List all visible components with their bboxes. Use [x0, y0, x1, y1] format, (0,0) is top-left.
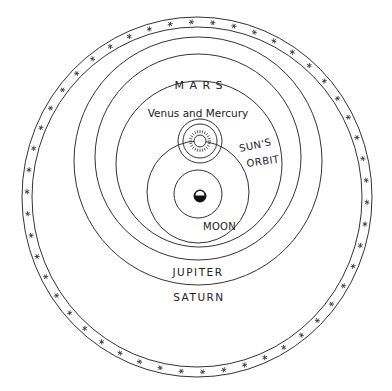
star-icon: [147, 26, 152, 31]
star-icon: [252, 30, 257, 35]
star-icon: [281, 345, 286, 350]
star-icon: [365, 200, 370, 205]
star-icon: [118, 350, 123, 355]
label-moon: MOON: [203, 221, 236, 232]
star-icon: [67, 310, 72, 315]
label-mars: M A R S: [174, 79, 223, 92]
star-icon: [25, 211, 30, 216]
star-icon: [299, 333, 304, 338]
star-icon: [168, 22, 173, 27]
star-icon: [272, 38, 277, 43]
star-icon: [38, 125, 43, 130]
star-icon: [221, 367, 226, 372]
orbits: [74, 37, 322, 285]
star-icon: [210, 20, 215, 25]
star-icon: [82, 326, 87, 331]
star-icon: [307, 63, 312, 68]
star-icon: [262, 355, 267, 360]
star-icon: [290, 50, 295, 55]
star-icon: [335, 96, 340, 101]
star-icon: [90, 56, 95, 61]
star-icon: [27, 167, 32, 172]
star-icon: [363, 222, 368, 227]
moon-icon: [199, 211, 204, 221]
star-icon: [25, 189, 30, 194]
star-icon: [189, 20, 194, 25]
star-icon: [137, 359, 142, 364]
star-icon: [99, 339, 104, 344]
star-icon: [29, 233, 34, 238]
star-icon: [354, 135, 359, 140]
star-icon: [108, 44, 113, 49]
label-orbit: ORBIT: [246, 153, 281, 169]
saturn-orbit: [74, 37, 322, 285]
star-icon: [31, 146, 36, 151]
star-icon: [360, 156, 365, 161]
star-icon: [346, 115, 351, 120]
star-icon: [329, 302, 334, 307]
label-saturn: SATURN: [173, 291, 224, 303]
star-icon: [179, 369, 184, 374]
star-icon: [43, 274, 48, 279]
star-icon: [74, 71, 79, 76]
star-icon: [315, 318, 320, 323]
star-icon: [54, 293, 59, 298]
star-icon: [231, 24, 236, 29]
label-suns: SUN'S: [238, 136, 272, 154]
label-jupiter: JUPITER: [171, 266, 223, 278]
star-icon: [322, 79, 327, 84]
star-icon: [200, 369, 205, 374]
star-icon: [364, 178, 369, 183]
star-icon: [127, 34, 132, 39]
star-icon: [358, 243, 363, 248]
label-venus-mercury: Venus and Mercury: [148, 107, 249, 119]
star-icon: [242, 362, 247, 367]
star-icon: [341, 283, 346, 288]
star-icon: [48, 106, 53, 111]
earth-icon: [194, 190, 206, 202]
star-icon: [60, 88, 65, 93]
tychonic-diagram: M A R S Venus and Mercury SUN'S ORBIT MO…: [0, 0, 392, 391]
star-icon: [35, 254, 40, 259]
star-icon: [351, 264, 356, 269]
star-icon: [158, 365, 163, 370]
